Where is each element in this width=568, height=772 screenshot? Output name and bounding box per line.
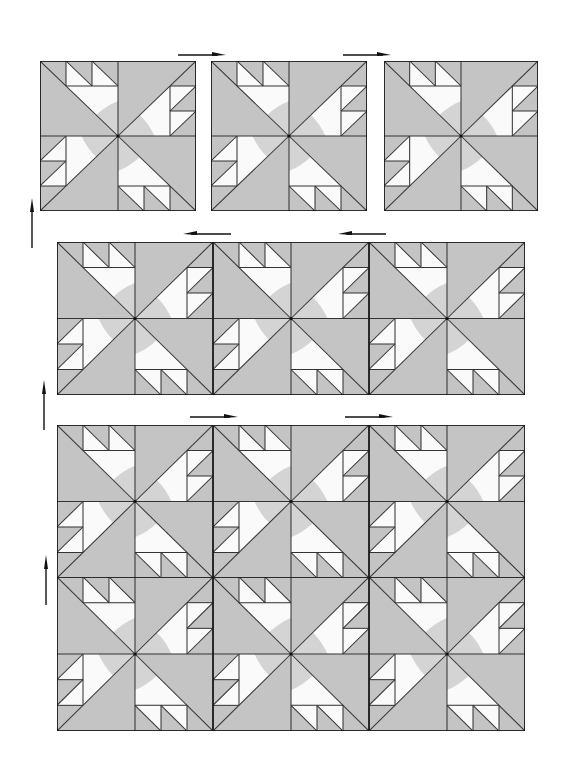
pressing-arrow-up: [28, 198, 36, 248]
quilt-block-r4-2: [213, 577, 369, 731]
pressing-arrow-right: [345, 412, 393, 420]
quilt-block-r3-3: [369, 425, 525, 578]
pressing-arrow-up: [42, 555, 50, 605]
pressing-arrow-up: [40, 380, 48, 430]
quilt-block-r1-1: [40, 61, 196, 211]
quilt-block-r3-2: [213, 425, 369, 578]
quilt-block-r3-1: [57, 425, 213, 578]
pressing-arrow-left: [183, 229, 231, 237]
quilt-block-r4-1: [57, 577, 213, 731]
pressing-arrow-right: [178, 50, 226, 58]
quilt-block-r1-3: [384, 61, 538, 211]
pressing-arrow-right: [190, 412, 238, 420]
quilt-block-r2-3: [369, 242, 525, 395]
pressing-arrow-right: [343, 50, 391, 58]
quilt-block-r4-3: [369, 577, 525, 731]
quilt-block-r2-2: [213, 242, 369, 395]
quilt-block-r2-1: [57, 242, 213, 395]
pressing-arrow-left: [338, 229, 386, 237]
quilt-block-r1-2: [211, 61, 367, 211]
